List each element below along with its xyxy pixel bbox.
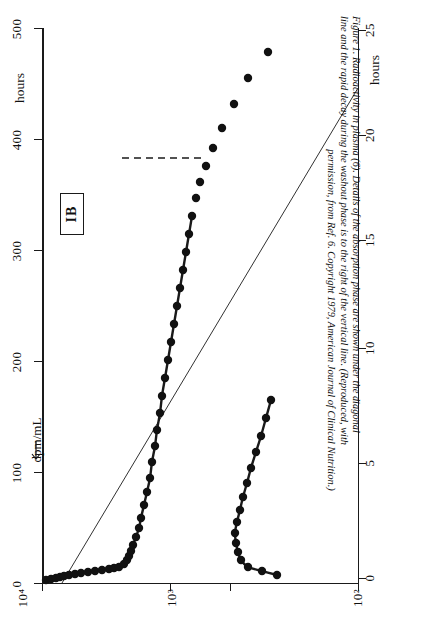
data-point xyxy=(132,533,140,541)
data-point xyxy=(135,524,143,532)
data-point xyxy=(140,501,148,509)
data-point xyxy=(170,320,178,328)
data-point xyxy=(233,518,241,526)
data-point xyxy=(239,493,247,501)
data-point xyxy=(273,571,281,579)
data-point xyxy=(247,464,255,472)
data-point xyxy=(230,100,238,108)
data-point xyxy=(262,414,270,422)
data-point xyxy=(176,284,184,292)
data-point xyxy=(244,563,252,571)
data-point xyxy=(244,74,252,82)
data-point xyxy=(267,396,275,404)
data-point xyxy=(258,567,266,575)
data-point xyxy=(209,144,217,152)
data-point xyxy=(153,426,161,434)
figure-caption: Figure 1. Radioactivity in plasma (6). D… xyxy=(302,0,362,624)
data-point xyxy=(161,374,169,382)
data-point xyxy=(188,212,196,220)
data-point xyxy=(179,266,187,274)
data-point xyxy=(167,338,175,346)
caption-line-1: Figure 1. Radioactivity in plasma (6). D… xyxy=(350,16,362,624)
caption-line-2: line and the rapid decay during the wash… xyxy=(337,16,349,624)
data-point xyxy=(164,356,172,364)
data-point xyxy=(218,124,226,132)
data-point xyxy=(156,409,164,417)
data-point xyxy=(252,448,260,456)
data-point xyxy=(148,458,156,466)
data-point xyxy=(264,48,272,56)
panel-label-text: IB xyxy=(64,206,80,223)
data-point xyxy=(243,479,251,487)
data-point xyxy=(146,474,154,482)
data-point xyxy=(202,162,210,170)
data-point xyxy=(173,302,181,310)
dpm-arrow-icon xyxy=(32,441,40,459)
absorption-curve xyxy=(46,216,192,580)
data-point xyxy=(232,539,240,547)
data-point xyxy=(237,556,245,564)
data-point xyxy=(236,506,244,514)
panel-label-box: IB xyxy=(60,193,84,235)
data-point xyxy=(185,230,193,238)
data-point xyxy=(151,442,159,450)
data-point xyxy=(158,392,166,400)
data-point xyxy=(129,541,137,549)
figure-container: 500 400 300 200 100 0 hours 10⁴ 10³ 10² … xyxy=(0,0,424,624)
caption-line-3: permission, from Ref. 6. Copyright 1979,… xyxy=(325,16,337,624)
data-point xyxy=(234,548,242,556)
data-point xyxy=(231,529,239,537)
data-point xyxy=(196,178,204,186)
data-point xyxy=(182,248,190,256)
washout-curve xyxy=(235,400,277,575)
data-point xyxy=(192,194,200,202)
data-point xyxy=(257,432,265,440)
data-point xyxy=(137,514,145,522)
data-point-layer xyxy=(42,48,281,584)
data-point xyxy=(143,488,151,496)
